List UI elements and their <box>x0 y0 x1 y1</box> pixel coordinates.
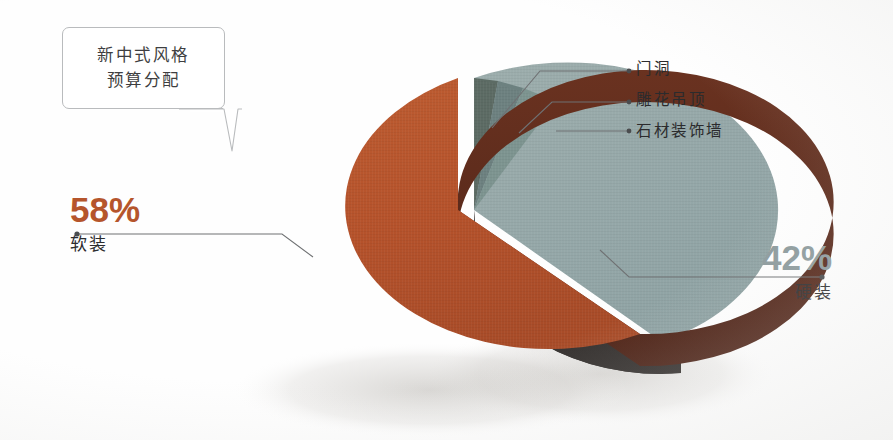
leader-dot-door-opening <box>627 69 632 74</box>
leader-dot-stone-wall <box>627 129 632 134</box>
soft-decoration-name: 软装 <box>70 236 140 253</box>
callout-line-2: 预算分配 <box>107 70 181 91</box>
callout-tail <box>178 96 298 166</box>
hard-decoration-label-group: 42% 硬装 <box>762 240 832 301</box>
callout-line-1: 新中式风格 <box>97 45 190 66</box>
soft-decoration-label-group: 58% 软装 <box>70 192 140 253</box>
pie-chart-infographic: 新中式风格 预算分配 58% 软装 42% 硬装 门洞 雕花吊顶 石材装饰墙 <box>0 0 893 440</box>
sub-slice-label-carved-ceiling: 雕花吊顶 <box>636 92 706 108</box>
sub-slice-label-door-opening: 门洞 <box>636 61 671 77</box>
hard-decoration-percent: 42% <box>762 240 832 275</box>
hard-decoration-name: 硬装 <box>762 284 832 301</box>
soft-decoration-percent: 58% <box>70 190 140 229</box>
sub-slice-label-stone-wall: 石材装饰墙 <box>636 123 724 139</box>
leader-dot-carved-ceiling <box>627 100 632 105</box>
